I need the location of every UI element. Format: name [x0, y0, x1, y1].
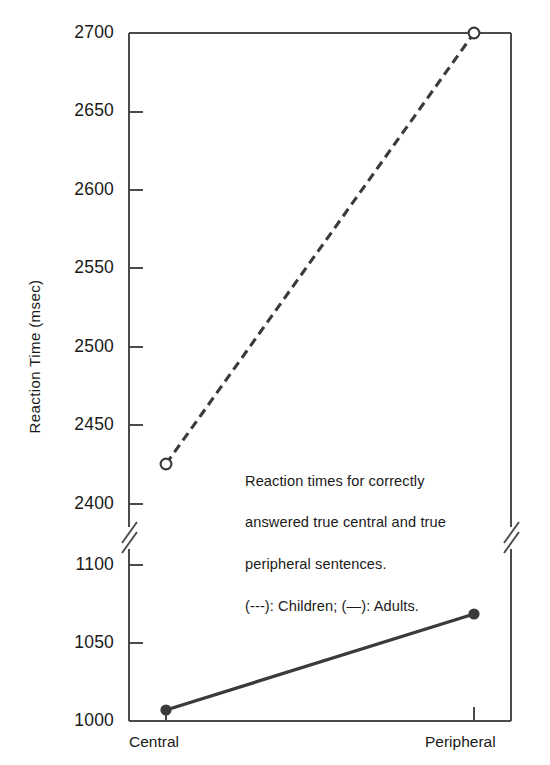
- plot-area: [0, 0, 550, 765]
- series-adults-point-peripheral: [468, 608, 479, 619]
- series-adults-point-central: [160, 704, 171, 715]
- x-tick-marks: [166, 707, 474, 721]
- series-children-point-central: [161, 459, 172, 470]
- series-children-line: [166, 33, 474, 464]
- series-children-point-peripheral: [469, 28, 480, 39]
- chart-figure: Reaction Time (msec) 2700 2650 2600 2550…: [0, 0, 550, 765]
- y-tick-marks: [129, 33, 143, 643]
- series-adults-line: [166, 614, 474, 710]
